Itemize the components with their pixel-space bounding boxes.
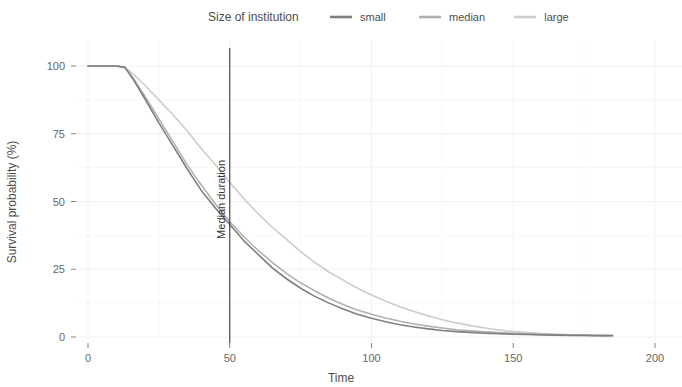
median-duration-label: Median duration: [215, 160, 227, 239]
x-tick-label: 200: [646, 352, 664, 364]
y-tick-label: 50: [53, 196, 65, 208]
x-tick-label: 0: [85, 352, 91, 364]
y-axis-title: Survival probability (%): [5, 141, 19, 264]
y-tick-label: 100: [47, 60, 65, 72]
x-tick-label: 50: [224, 352, 236, 364]
y-tick-label: 75: [53, 128, 65, 140]
legend-label-median: median: [449, 11, 485, 23]
legend-label-small: small: [360, 11, 386, 23]
legend-label-large: large: [544, 11, 568, 23]
x-axis-title: Time: [328, 371, 355, 385]
y-tick-label: 25: [53, 263, 65, 275]
chart-svg: Size of institutionsmallmedianlarge Medi…: [0, 0, 682, 387]
survival-curve-chart: Size of institutionsmallmedianlarge Medi…: [0, 0, 682, 387]
y-tick-label: 0: [59, 331, 65, 343]
chart-background: [0, 0, 682, 387]
x-tick-label: 150: [504, 352, 522, 364]
x-tick-label: 100: [362, 352, 380, 364]
legend-title: Size of institution: [208, 10, 299, 24]
